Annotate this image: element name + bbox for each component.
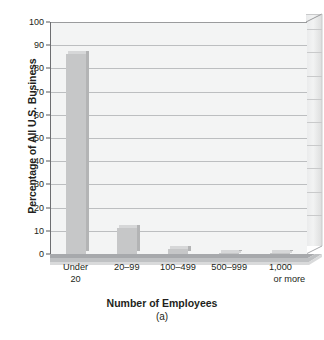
bar bbox=[66, 54, 86, 254]
bar-side-face bbox=[188, 246, 191, 251]
side-wall-rib bbox=[306, 145, 322, 146]
x-tick-label-line1: Under bbox=[63, 262, 88, 272]
side-wall-rib bbox=[306, 192, 322, 193]
y-tick-label: 20 bbox=[34, 203, 44, 213]
bar-side-face bbox=[239, 250, 242, 251]
bar-top-face bbox=[272, 250, 292, 253]
plot-frame bbox=[50, 14, 322, 260]
side-wall-rib bbox=[306, 122, 322, 123]
side-wall-rib bbox=[306, 52, 322, 53]
bar-series bbox=[50, 22, 306, 254]
y-tick-label: 90 bbox=[34, 40, 44, 50]
side-wall-rib bbox=[306, 99, 322, 100]
y-tick-label: 0 bbox=[39, 249, 44, 259]
bar-top-face bbox=[170, 246, 190, 249]
side-wall-rib bbox=[306, 14, 322, 15]
side-wall-rib bbox=[306, 29, 322, 30]
y-tick-label: 50 bbox=[34, 133, 44, 143]
bar-top-face bbox=[68, 51, 88, 54]
bar-chart-figure: Percentage of All U.S. Business 01020304… bbox=[0, 0, 324, 340]
x-tick-label-line2: 20 bbox=[41, 274, 111, 286]
bar bbox=[117, 228, 137, 254]
y-tick-label: 100 bbox=[29, 17, 44, 27]
bar-side-face bbox=[290, 250, 293, 251]
plot-side-wall bbox=[306, 14, 322, 246]
side-wall-rib bbox=[306, 215, 322, 216]
x-tick-label: 1,000or more bbox=[245, 262, 315, 285]
y-tick-label: 30 bbox=[34, 179, 44, 189]
x-axis-title: Number of Employees bbox=[0, 297, 324, 309]
side-wall-rib bbox=[306, 76, 322, 77]
y-axis-ticks: 0102030405060708090100 bbox=[22, 14, 50, 260]
bar-side-face bbox=[86, 51, 89, 251]
bar-top-face bbox=[119, 225, 139, 228]
x-tick-label-line2: or more bbox=[254, 274, 324, 286]
y-tick-label: 60 bbox=[34, 110, 44, 120]
bar-side-face bbox=[137, 225, 140, 251]
y-tick-label: 70 bbox=[34, 87, 44, 97]
figure-sublabel: (a) bbox=[0, 311, 324, 322]
y-tick-label: 10 bbox=[34, 226, 44, 236]
x-tick-label-line1: 500–999 bbox=[211, 262, 247, 272]
side-wall-rib bbox=[306, 168, 322, 169]
x-axis-ticks: Under2020–99100–499500–9991,000or more bbox=[50, 262, 322, 292]
x-tick-label-line1: 20–99 bbox=[114, 262, 140, 272]
bar-top-face bbox=[221, 250, 241, 253]
x-tick-label-line1: 1,000 bbox=[269, 262, 292, 272]
y-tick-label: 40 bbox=[34, 156, 44, 166]
x-tick-label-line1: 100–499 bbox=[160, 262, 196, 272]
y-tick-label: 80 bbox=[34, 63, 44, 73]
